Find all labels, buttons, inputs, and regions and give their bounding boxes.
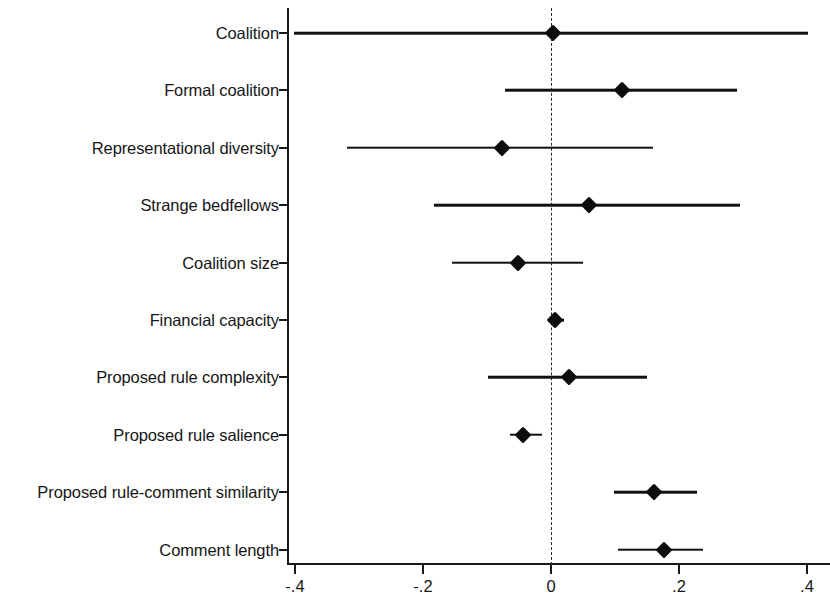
x-axis-tick xyxy=(422,565,424,574)
x-axis-tick-label: -.4 xyxy=(285,578,304,595)
x-axis-tick xyxy=(550,565,552,574)
y-axis-label: Coalition xyxy=(216,25,279,42)
coefficient-plot-figure: CoalitionFormal coalitionRepresentationa… xyxy=(0,0,830,603)
x-axis-tick-label: 0 xyxy=(546,578,555,595)
y-axis-label: Proposed rule salience xyxy=(113,427,279,444)
y-axis-label: Proposed rule-comment similarity xyxy=(37,484,279,501)
x-axis-tick xyxy=(294,565,296,574)
y-axis-label: Financial capacity xyxy=(150,312,279,329)
x-axis-tick-label: -.2 xyxy=(413,578,432,595)
plot-area: -.4-.20.2.4 xyxy=(287,8,830,565)
x-axis-ticks: -.4-.20.2.4 xyxy=(287,8,830,565)
y-axis-label: Strange bedfellows xyxy=(140,197,279,214)
x-axis-tick xyxy=(678,565,680,574)
x-axis-tick xyxy=(806,565,808,574)
y-axis-label: Coalition size xyxy=(182,254,279,271)
y-axis-label: Proposed rule complexity xyxy=(96,369,279,386)
y-axis-label: Formal coalition xyxy=(164,82,279,99)
x-axis-tick-label: .2 xyxy=(672,578,686,595)
y-axis-labels: CoalitionFormal coalitionRepresentationa… xyxy=(0,0,279,603)
y-axis-label: Comment length xyxy=(159,541,279,558)
y-axis-label: Representational diversity xyxy=(92,140,279,157)
x-axis-tick-label: .4 xyxy=(800,578,814,595)
